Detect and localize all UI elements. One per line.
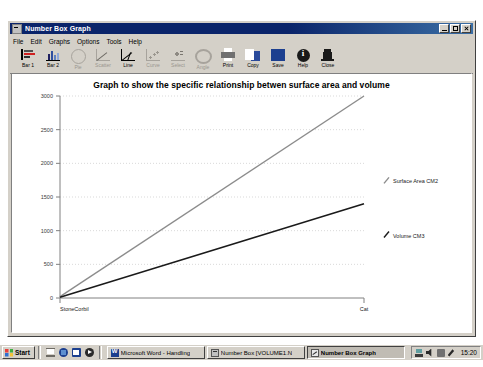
floppy-disk-icon [270, 48, 286, 62]
quick-launch-bar [44, 348, 96, 357]
task-label: Number Box Graph [321, 350, 376, 356]
series-line [60, 96, 364, 297]
menu-item-options[interactable]: Options [77, 37, 99, 46]
toolbar-label: Copy [247, 62, 259, 68]
toolbar-label: Save [272, 62, 283, 68]
toolbar-label: Help [298, 62, 308, 68]
toolbar-label: Select [171, 62, 185, 68]
bar-chart-1-icon [20, 48, 36, 62]
toolbar-button-close[interactable]: Close [316, 47, 340, 71]
system-menu-icon[interactable] [12, 24, 22, 34]
application-window: Number Box Graph File Edit Graphs Option… [7, 20, 476, 337]
task-button-list: Microsoft Word - Handling Number Box [VO… [105, 346, 411, 359]
toolbar-label: Angle [197, 64, 210, 70]
menu-item-graphs[interactable]: Graphs [49, 37, 70, 46]
scatter-plot-icon [95, 48, 111, 62]
toolbar-label: Bar 1 [22, 62, 34, 68]
pie-chart-icon [71, 49, 86, 64]
toolbar-button-bar1[interactable]: Bar 1 [16, 47, 40, 71]
task-button-numberbox[interactable]: Number Box [VOLUME1.N [207, 346, 305, 359]
toolbar-button-copy[interactable]: Copy [241, 47, 265, 71]
y-axis-tick-label: 1500 [41, 194, 53, 200]
task-label: Microsoft Word - Handling [121, 350, 190, 356]
volume-icon[interactable] [426, 349, 434, 357]
chart-client-area: Graph to show the specific relationship … [11, 73, 472, 333]
internet-explorer-icon[interactable] [59, 348, 68, 357]
toolbar-label: Curve [146, 62, 159, 68]
x-axis-tick-label: Cat [360, 306, 369, 312]
media-player-icon[interactable] [85, 348, 94, 357]
task-label: Number Box [VOLUME1.N [221, 350, 292, 356]
toolbar-button-curve: Curve [141, 47, 165, 71]
desktop: Number Box Graph File Edit Graphs Option… [0, 0, 483, 367]
toolbar-button-save[interactable]: Save [266, 47, 290, 71]
toolbar-label: Close [322, 62, 335, 68]
copy-icon [245, 48, 261, 62]
toolbar-button-scatter: Scatter [91, 47, 115, 71]
exit-door-icon [320, 48, 336, 62]
window-controls [439, 24, 471, 33]
plot-area[interactable]: 050010001500200025003000StoneCorbilCatSu… [12, 74, 471, 332]
y-axis-tick-label: 2000 [41, 160, 53, 166]
windows-flag-icon [5, 349, 13, 357]
toolbar-button-select: Select [166, 47, 190, 71]
toolbar-label: Bar 2 [47, 62, 59, 68]
curve-chart-icon [145, 48, 161, 62]
toolbar-label: Pie [74, 64, 81, 70]
toolbar-button-bar2[interactable]: Bar 2 [41, 47, 65, 71]
menu-item-edit[interactable]: Edit [30, 37, 41, 46]
start-label: Start [15, 349, 30, 356]
taskbar: Start Microsoft Word - Handling Number B… [0, 344, 483, 360]
maximize-button[interactable] [450, 24, 460, 33]
toolbar-label: Scatter [95, 62, 111, 68]
menu-item-file[interactable]: File [13, 37, 23, 46]
close-button[interactable] [461, 24, 471, 33]
graph-icon [311, 349, 319, 357]
y-axis-tick-label: 1000 [41, 228, 53, 234]
toolbar-label: Print [223, 62, 233, 68]
word-icon [111, 349, 119, 357]
toolbar-label: Line [123, 62, 132, 68]
pen-icon[interactable] [448, 349, 456, 357]
toolbar-button-print[interactable]: Print [216, 47, 240, 71]
legend-marker [384, 232, 389, 238]
toolbar: Bar 1 Bar 2 Pie Scatter Line Curve [10, 46, 473, 74]
toolbar-button-angle: Angle [191, 47, 215, 71]
y-axis-tick-label: 0 [50, 295, 53, 301]
window-title: Number Box Graph [25, 24, 439, 33]
x-axis-tick-label: StoneCorbil [60, 306, 89, 312]
legend-marker [384, 177, 389, 183]
info-icon [297, 49, 310, 62]
angle-gauge-icon [195, 49, 212, 64]
toolbar-button-help[interactable]: Help [291, 47, 315, 71]
menu-item-tools[interactable]: Tools [106, 37, 121, 46]
y-axis-tick-label: 2500 [41, 127, 53, 133]
system-tray: 15:20 [411, 346, 481, 359]
minimize-button[interactable] [439, 24, 449, 33]
task-button-numberbox-graph[interactable]: Number Box Graph [307, 346, 405, 359]
show-desktop-icon[interactable] [46, 348, 55, 357]
select-area-icon [170, 48, 186, 62]
legend-label: Volume CM3 [393, 233, 425, 239]
app-icon [211, 349, 219, 357]
toolbar-button-pie: Pie [66, 47, 90, 71]
toolbar-button-line[interactable]: Line [116, 47, 140, 71]
legend-label: Surface Area CM2 [393, 178, 438, 184]
title-bar[interactable]: Number Box Graph [10, 23, 473, 34]
taskbar-divider [38, 346, 41, 359]
network-icon[interactable] [415, 349, 423, 357]
menu-bar: File Edit Graphs Options Tools Help [10, 36, 473, 46]
display-icon[interactable] [437, 349, 445, 357]
start-button[interactable]: Start [2, 346, 35, 359]
line-chart-icon [120, 48, 136, 62]
taskbar-clock[interactable]: 15:20 [459, 349, 477, 356]
task-button-word[interactable]: Microsoft Word - Handling [107, 346, 205, 359]
y-axis-tick-label: 500 [44, 261, 53, 267]
taskbar-divider [99, 346, 102, 359]
bar-chart-2-icon [45, 48, 61, 62]
menu-item-help[interactable]: Help [129, 37, 142, 46]
printer-icon [220, 48, 236, 62]
chart-svg: 050010001500200025003000StoneCorbilCatSu… [12, 74, 472, 333]
series-line [60, 204, 364, 298]
outlook-express-icon[interactable] [72, 348, 81, 357]
